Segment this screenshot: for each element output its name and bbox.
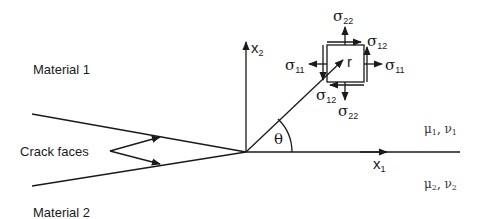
sigma12-top-label: σ12 — [367, 34, 387, 51]
crack-pointer-lower — [110, 151, 160, 164]
sigma-subscript: 11 — [395, 65, 404, 75]
material-1-label: Material 1 — [33, 63, 90, 76]
sigma12-bottom-label: σ12 — [316, 88, 336, 105]
sigma-subscript: 11 — [295, 65, 304, 75]
sigma-subscript: 12 — [377, 41, 387, 51]
x1-base: x — [373, 155, 381, 172]
sigma-symbol: σ — [285, 56, 295, 74]
sigma-subscript: 22 — [348, 111, 358, 121]
sigma-symbol: σ — [316, 86, 326, 104]
x2-sub: 2 — [259, 48, 264, 58]
radius-label: r — [347, 54, 352, 69]
sigma11-left-label: σ11 — [285, 58, 305, 75]
material-1-properties: μ1, ν1 — [424, 122, 457, 137]
x1-axis-label: x1 — [373, 156, 386, 174]
x2-base: x — [251, 39, 259, 56]
separator: , — [437, 122, 445, 136]
theta-label: θ — [274, 132, 283, 147]
material-2-label: Material 2 — [33, 206, 90, 219]
x2-axis-label: x2 — [251, 40, 264, 58]
sigma11-right-label: σ11 — [385, 58, 405, 75]
sigma-subscript: 12 — [326, 95, 336, 105]
sigma-symbol: σ — [367, 32, 377, 50]
sigma22-top-label: σ22 — [333, 9, 353, 26]
crack-pointer-upper — [110, 137, 160, 151]
stress-element — [327, 45, 364, 82]
sigma22-bottom-label: σ22 — [338, 104, 358, 121]
crack-faces-label: Crack faces — [20, 145, 89, 158]
diagram-canvas — [0, 0, 482, 219]
separator: , — [437, 177, 445, 191]
nu-sub: 2 — [452, 183, 457, 192]
sigma-symbol: σ — [333, 7, 343, 25]
nu-symbol: ν — [445, 177, 452, 191]
nu-symbol: ν — [445, 122, 452, 136]
nu-sub: 1 — [452, 128, 457, 137]
x1-sub: 1 — [381, 164, 386, 174]
mu-symbol: μ — [424, 122, 432, 136]
sigma-symbol: σ — [338, 102, 348, 120]
mu-symbol: μ — [424, 177, 432, 191]
material-2-properties: μ2, ν2 — [424, 177, 457, 192]
sigma-subscript: 22 — [343, 16, 353, 26]
sigma-symbol: σ — [385, 56, 395, 74]
